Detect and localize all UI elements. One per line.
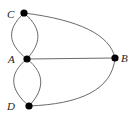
- edge-a-d-right: [27, 59, 41, 106]
- node-b: [111, 54, 118, 61]
- edge-a-b: [27, 58, 115, 59]
- edge-a-d-left: [14, 59, 29, 106]
- node-a: [23, 55, 30, 62]
- label-a: A: [7, 53, 15, 65]
- label-c: C: [7, 8, 15, 20]
- node-d: [25, 102, 32, 109]
- label-d: D: [6, 100, 15, 112]
- node-c: [20, 9, 27, 16]
- edge-d-b: [29, 58, 115, 106]
- graph-diagram: C A B D: [0, 0, 135, 118]
- edge-c-a-right: [24, 13, 38, 59]
- label-b: B: [121, 52, 128, 64]
